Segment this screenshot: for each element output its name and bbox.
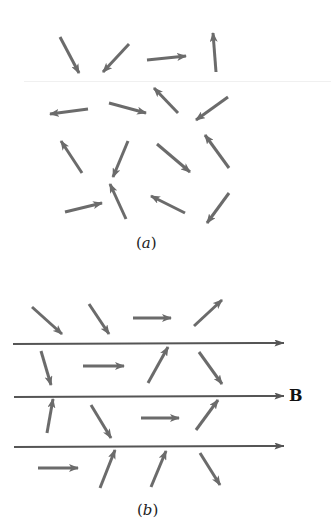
field-line-arrow-icon-3 (14, 446, 284, 447)
dipole-arrow-icon-b-7 (148, 347, 168, 383)
dipole-arrow-icon-b-8 (199, 352, 222, 384)
panel-b-field-lines (13, 343, 284, 447)
field-line-arrow-icon-2 (14, 396, 284, 397)
dipole-arrow-icon-b-1 (32, 307, 62, 334)
dipole-arrow-icon-a-8 (196, 97, 228, 120)
dipole-arrow-icon-a-13 (65, 203, 102, 212)
dipole-arrow-icon-a-3 (147, 56, 186, 60)
dipole-arrow-icon-a-11 (157, 144, 190, 172)
dipole-arrow-icon-b-10 (91, 405, 111, 438)
dipole-arrow-icon-a-4 (213, 33, 216, 72)
dipole-arrow-icon-b-12 (196, 400, 218, 430)
panel-a-label: (a) (136, 234, 157, 252)
dipole-arrow-icon-b-15 (151, 451, 166, 487)
field-line-arrow-icon-1 (13, 343, 284, 344)
dipole-arrow-icon-a-16 (207, 193, 229, 223)
dipole-arrow-icon-b-4 (194, 300, 222, 326)
dipole-arrow-icon-b-9 (47, 399, 53, 433)
dipole-arrow-icon-b-5 (41, 351, 51, 385)
dipole-arrow-icon-a-1 (60, 37, 79, 73)
dipole-arrow-icon-a-15 (151, 196, 185, 213)
dipole-arrow-icon-a-12 (205, 135, 229, 168)
panel-b-label: (b) (137, 501, 158, 519)
panel-b-dipoles (32, 300, 222, 488)
dipole-arrow-icon-b-2 (89, 304, 109, 334)
dipole-arrow-icon-b-16 (200, 453, 220, 485)
magnetic-dipole-figure: (a) B (b) (0, 0, 331, 530)
dipole-arrow-icon-a-10 (113, 141, 128, 177)
dipole-arrow-icon-a-14 (110, 184, 126, 219)
diagram-canvas (0, 0, 331, 530)
magnetic-field-label: B (289, 386, 303, 405)
dipole-arrow-icon-a-2 (103, 44, 129, 72)
panel-a-dipoles (50, 33, 229, 223)
dipole-arrow-icon-a-5 (50, 109, 88, 114)
dipole-arrow-icon-a-7 (154, 88, 178, 113)
dipole-arrow-icon-a-9 (61, 141, 82, 173)
dipole-arrow-icon-a-6 (109, 103, 146, 113)
dipole-arrow-icon-b-14 (100, 450, 115, 488)
panel-a-label-text: a (142, 234, 151, 252)
